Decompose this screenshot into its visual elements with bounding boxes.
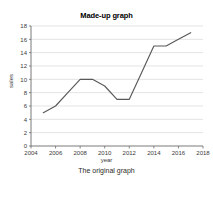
x-tick-label-2006: 2006 xyxy=(49,150,63,156)
y-tick-label-2: 2 xyxy=(24,130,28,136)
x-axis-title: year xyxy=(0,157,213,163)
figure-caption: The original graph xyxy=(0,167,213,174)
x-tick-label-2004: 2004 xyxy=(24,150,38,156)
x-tick-label-2014: 2014 xyxy=(147,150,161,156)
data-series-line xyxy=(43,33,190,113)
y-tick-label-6: 6 xyxy=(24,103,28,109)
x-axis-tick-labels: 20042006200820102012201420162018 xyxy=(24,146,210,156)
y-tick-label-16: 16 xyxy=(20,37,27,43)
series-line-sales xyxy=(43,33,190,113)
y-axis-title: sales xyxy=(8,61,14,101)
y-axis-tick-labels: 024681012141618 xyxy=(20,23,31,149)
chart-figure: Made-up graph 024681012141618 2004200620… xyxy=(0,0,213,198)
y-tick-label-0: 0 xyxy=(24,143,28,149)
gridlines xyxy=(31,26,203,133)
x-tick-label-2018: 2018 xyxy=(196,150,210,156)
y-tick-label-14: 14 xyxy=(20,50,27,56)
y-tick-label-18: 18 xyxy=(20,23,27,29)
y-tick-label-8: 8 xyxy=(24,90,28,96)
x-tick-label-2008: 2008 xyxy=(73,150,87,156)
y-tick-label-12: 12 xyxy=(20,63,27,69)
y-tick-label-4: 4 xyxy=(24,117,28,123)
y-tick-label-10: 10 xyxy=(20,77,27,83)
x-tick-label-2010: 2010 xyxy=(98,150,112,156)
x-tick-label-2016: 2016 xyxy=(172,150,186,156)
x-tick-label-2012: 2012 xyxy=(123,150,137,156)
axis-lines xyxy=(31,26,203,146)
